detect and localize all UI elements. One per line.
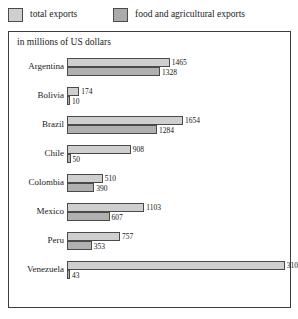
bar-total-exports [67, 261, 285, 270]
bar-value-label: 50 [73, 156, 81, 164]
chart-legend: total exports food and agricultural expo… [0, 4, 298, 28]
legend-swatch-icon [8, 8, 23, 22]
bar-value-label: 353 [94, 243, 105, 251]
bar-food-and-agricultural-exports [67, 154, 71, 163]
bar-value-label: 510 [105, 175, 116, 183]
chart-frame: in millions of US dollars Argentina14651… [8, 31, 291, 308]
chart-plot-area: Argentina14651328Bolivia17410Brazil16541… [9, 56, 290, 306]
bar-row: Bolivia17410 [9, 87, 290, 107]
bar-total-exports [67, 87, 79, 96]
bar-total-exports [67, 232, 120, 241]
bar-food-and-agricultural-exports [67, 212, 110, 221]
category-label: Peru [9, 236, 64, 245]
bar-total-exports [67, 145, 131, 154]
legend-label: total exports [30, 10, 77, 20]
bar-value-label: 1465 [172, 59, 187, 67]
bar-value-label: 390 [96, 185, 107, 193]
category-label: Chile [9, 149, 64, 158]
bar-value-label: 908 [133, 146, 144, 154]
category-label: Mexico [9, 207, 64, 216]
bar-row: Mexico1103607 [9, 203, 290, 223]
bar-value-label: 3108 [287, 262, 298, 270]
legend-label: food and agricultural exports [135, 10, 245, 20]
bar-food-and-agricultural-exports [67, 96, 70, 105]
bar-total-exports [67, 58, 170, 67]
category-label: Brazil [9, 120, 64, 129]
bar-row: Argentina14651328 [9, 58, 290, 78]
bar-total-exports [67, 203, 144, 212]
bar-value-label: 1103 [146, 204, 161, 212]
bar-food-and-agricultural-exports [67, 270, 70, 279]
bar-value-label: 607 [112, 214, 123, 222]
bar-total-exports [67, 116, 183, 125]
bar-value-label: 10 [72, 98, 80, 106]
category-label: Colombia [9, 178, 64, 187]
bar-value-label: 757 [122, 233, 133, 241]
bar-food-and-agricultural-exports [67, 241, 92, 250]
bar-row: Peru757353 [9, 232, 290, 252]
bar-total-exports [67, 174, 103, 183]
category-label: Argentina [9, 62, 64, 71]
bar-value-label: 1284 [159, 127, 174, 135]
bar-food-and-agricultural-exports [67, 125, 157, 134]
bar-row: Venezuela310843 [9, 261, 290, 281]
bar-value-label: 43 [72, 272, 80, 280]
legend-entry-total-exports: total exports [8, 7, 77, 23]
bar-row: Chile90850 [9, 145, 290, 165]
legend-swatch-icon [113, 8, 128, 22]
bar-row: Colombia510390 [9, 174, 290, 194]
chart-subtitle: in millions of US dollars [17, 37, 111, 47]
bar-value-label: 174 [81, 88, 92, 96]
category-label: Venezuela [9, 265, 64, 274]
bar-row: Brazil16541284 [9, 116, 290, 136]
bar-food-and-agricultural-exports [67, 183, 94, 192]
bar-value-label: 1328 [162, 69, 177, 77]
legend-entry-food-and-agricultural-exports: food and agricultural exports [113, 7, 245, 23]
bar-food-and-agricultural-exports [67, 67, 160, 76]
bar-value-label: 1654 [185, 117, 200, 125]
category-label: Bolivia [9, 91, 64, 100]
